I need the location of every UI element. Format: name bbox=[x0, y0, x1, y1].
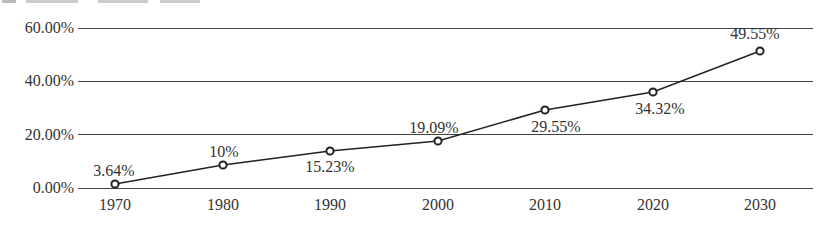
data-label: 3.64% bbox=[74, 163, 154, 179]
data-point-marker bbox=[649, 88, 656, 95]
x-tick-label: 2010 bbox=[515, 197, 575, 213]
x-tick-label: 2000 bbox=[408, 197, 468, 213]
data-point-marker bbox=[219, 161, 226, 168]
data-label: 10% bbox=[184, 144, 264, 160]
data-label: 34.32% bbox=[620, 101, 700, 117]
data-point-marker bbox=[434, 137, 441, 144]
x-tick-label: 1970 bbox=[85, 197, 145, 213]
data-label: 29.55% bbox=[516, 119, 596, 135]
x-tick-label: 1980 bbox=[193, 197, 253, 213]
data-label: 49.55% bbox=[715, 26, 795, 42]
x-tick-label: 1990 bbox=[300, 197, 360, 213]
data-point-marker bbox=[111, 180, 118, 187]
data-point-marker bbox=[541, 106, 548, 113]
x-tick-label: 2020 bbox=[623, 197, 683, 213]
data-label: 19.09% bbox=[394, 120, 474, 136]
x-tick-label: 2030 bbox=[730, 197, 790, 213]
data-point-marker bbox=[756, 47, 763, 54]
data-label: 15.23% bbox=[290, 159, 370, 175]
data-point-marker bbox=[326, 147, 333, 154]
